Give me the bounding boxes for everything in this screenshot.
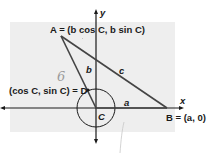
point-c-label: C — [98, 111, 105, 122]
x-axis-right-arrow-icon — [179, 106, 184, 110]
y-axis-up-arrow-icon — [94, 9, 98, 14]
handwritten-note: 6 — [57, 69, 65, 84]
point-b-label: B = (a, 0) — [166, 112, 206, 123]
side-c-label: c — [119, 65, 125, 76]
x-axis-left-arrow-icon — [0, 106, 5, 110]
x-axis-label: x — [179, 95, 186, 106]
law-of-cosines-diagram: A = (b cos C, b sin C) b c (cos C, sin C… — [0, 0, 209, 153]
y-axis-label: y — [99, 7, 106, 18]
point-a-label: A = (b cos C, b sin C) — [50, 24, 145, 35]
point-d-label: (cos C, sin C) = D — [9, 85, 88, 96]
side-a-label: a — [124, 97, 129, 108]
y-axis-down-arrow-icon — [94, 139, 98, 144]
side-b-label: b — [86, 64, 92, 75]
background-panel — [10, 22, 175, 132]
